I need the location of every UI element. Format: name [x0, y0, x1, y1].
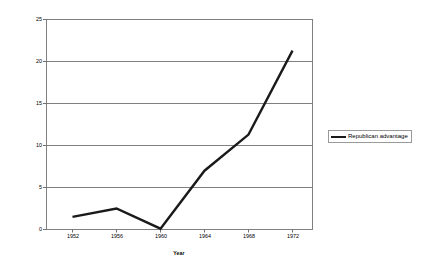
x-tick-label-1964: 1964: [188, 233, 222, 239]
x-tick-label-1952: 1952: [56, 233, 90, 239]
legend-swatch-republican-advantage: [331, 136, 346, 138]
legend: Republican advantage: [328, 130, 412, 143]
legend-label-republican-advantage: Republican advantage: [348, 133, 408, 140]
x-tick-label-1968: 1968: [232, 233, 266, 239]
plot-frame: [47, 20, 313, 230]
x-tick-label-1956: 1956: [100, 233, 134, 239]
x-axis-title: Year: [46, 250, 312, 256]
line-chart: Millions of dollars 25 20 15 10 5 0 1952…: [0, 0, 431, 270]
x-tick-label-1960: 1960: [144, 233, 178, 239]
x-tick-label-1972: 1972: [276, 233, 310, 239]
